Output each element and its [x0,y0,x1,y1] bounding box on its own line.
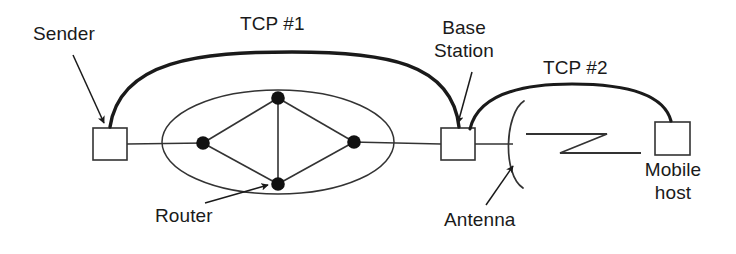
base-station-label-line2: Station [428,39,500,62]
base-station-box[interactable] [441,128,475,160]
sender-host-box[interactable] [93,128,127,160]
mobile-host-box[interactable] [655,122,690,155]
router-label: Router [155,204,213,227]
router-node-left[interactable] [196,136,210,150]
link-cloud-to-base-station [352,142,441,144]
router-edge-left-top [203,98,278,143]
base-station-label-line1: Base [428,16,500,39]
wireless-lightning-icon [526,134,641,153]
mobile-host-label-line1: Mobile [633,158,713,181]
mobile-host-label-line2: host [633,181,713,204]
router-edge-top-right [278,98,354,142]
sender-callout-arrow [73,55,104,123]
router-edge-right-bottom [278,142,354,184]
antenna-label: Antenna [444,208,516,231]
tcp2-label: TCP #2 [543,56,608,79]
link-sender-to-cloud [127,143,205,144]
router-node-bottom[interactable] [271,177,285,191]
router-cloud [162,90,394,194]
router-node-top[interactable] [271,91,285,105]
router-mesh-edges [203,98,354,184]
diagram-canvas [0,0,736,254]
network-diagram: Sender TCP #1 Base Station TCP #2 Router… [0,0,736,254]
tcp1-label: TCP #1 [240,12,305,35]
base-station-callout-arrow [458,72,472,123]
router-edge-bottom-left [203,143,278,184]
tcp2-connection-arc [470,84,671,129]
sender-label: Sender [33,22,95,45]
router-node-right[interactable] [347,135,361,149]
antenna-callout-arrow [486,166,513,205]
